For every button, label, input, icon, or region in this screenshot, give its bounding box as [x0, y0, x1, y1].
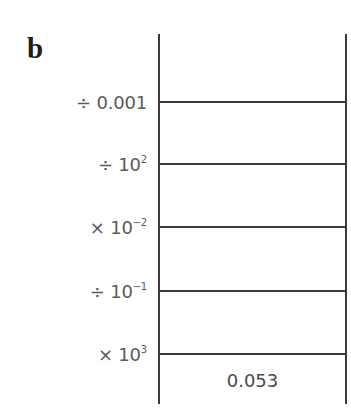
step-label-1: ÷ 0.001: [76, 94, 147, 112]
step-label-4: ÷ 10−1: [90, 283, 147, 301]
step-exponent: 2: [141, 154, 147, 165]
step-operation: ÷ 10: [90, 281, 133, 302]
step-operation: × 10: [90, 217, 133, 238]
step-rule-2: [158, 163, 347, 165]
step-exponent: 3: [141, 344, 147, 355]
step-operation: × 10: [98, 344, 141, 365]
step-exponent: −1: [133, 281, 147, 292]
result-value: 0.053: [158, 372, 347, 390]
step-rule-4: [158, 290, 347, 292]
step-label-5: × 103: [98, 346, 147, 364]
step-operation: ÷ 0.001: [76, 92, 147, 113]
right-vertical-rule: [345, 34, 347, 404]
step-label-3: × 10−2: [90, 219, 147, 237]
left-vertical-rule: [158, 34, 160, 404]
step-exponent: −2: [133, 217, 147, 228]
step-rule-3: [158, 226, 347, 228]
step-label-2: ÷ 102: [98, 156, 147, 174]
step-rule-5: [158, 353, 347, 355]
panel-label: b: [27, 34, 43, 63]
step-rule-1: [158, 101, 347, 103]
step-operation: ÷ 10: [98, 154, 141, 175]
